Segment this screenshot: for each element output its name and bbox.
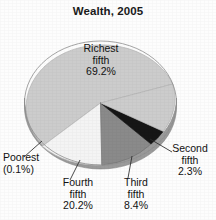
slice-label-poorest-line1: Poorest — [3, 151, 39, 163]
pie-chart-plot-area: Richest fifth 69.2% Poorest (0.1%) Fourt… — [0, 0, 216, 220]
slice-label-third-fifth-line1: Third — [124, 176, 148, 188]
slice-label-fourth-fifth: Fourth fifth 20.2% — [47, 177, 109, 212]
slice-label-third-fifth: Third fifth 8.4% — [110, 177, 162, 212]
slice-label-richest-fifth-value: 69.2% — [62, 66, 140, 78]
slice-label-second-fifth-value: 2.3% — [164, 166, 216, 178]
slice-label-richest-fifth: Richest fifth 69.2% — [62, 43, 140, 78]
slice-label-second-fifth: Second fifth 2.3% — [164, 143, 216, 178]
pie-chart-figure: Wealth, 2005 — [0, 0, 216, 220]
slice-label-second-fifth-line1: Second — [172, 142, 208, 154]
slice-label-third-fifth-value: 8.4% — [110, 200, 162, 212]
slice-label-fourth-fifth-line1: Fourth — [63, 176, 93, 188]
slice-label-poorest-value: (0.1%) — [3, 164, 65, 176]
slice-label-poorest: Poorest (0.1%) — [3, 152, 65, 175]
slice-label-fourth-fifth-value: 20.2% — [47, 200, 109, 212]
slice-label-richest-fifth-line1: Richest — [83, 42, 118, 54]
